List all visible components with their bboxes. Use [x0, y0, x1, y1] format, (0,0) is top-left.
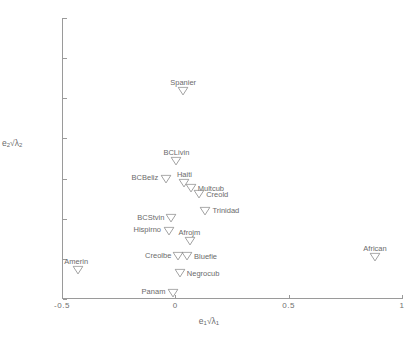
y-axis-title-radical: √λ	[10, 138, 19, 148]
x-tick-mark	[289, 295, 290, 299]
data-point-label: Haiti	[177, 171, 192, 179]
y-axis-line	[62, 18, 63, 299]
x-tick-mark	[62, 295, 63, 299]
data-point-label: African	[363, 245, 386, 253]
data-point-marker	[182, 252, 193, 261]
data-point-marker	[163, 226, 174, 235]
data-point-label: BCStvin	[137, 214, 164, 222]
x-tick-label: 1	[400, 301, 405, 310]
y-tick-mark	[63, 299, 67, 300]
data-point-marker	[194, 190, 205, 199]
x-tick-label: 0	[173, 301, 178, 310]
x-tick-label: 0.5	[282, 301, 295, 310]
y-axis-title: e2√λ2	[2, 138, 22, 148]
x-axis-title-radical-sub: 1	[216, 320, 219, 326]
data-point-label: Spanier	[170, 79, 196, 87]
y-tick-mark	[63, 98, 67, 99]
data-point-label: BCBeliz	[132, 174, 159, 182]
data-point-label: Hispirno	[134, 226, 162, 234]
data-point-label: Negrocub	[187, 270, 220, 278]
x-tick-label: -0.5	[54, 301, 70, 310]
x-tick-mark	[402, 295, 403, 299]
data-point-label: Panam	[142, 288, 166, 296]
y-tick-mark	[63, 179, 67, 180]
plot-area: 10.80.60.40.20-0.2-0.4 -0.500.51 Spanier…	[62, 18, 402, 299]
data-point-marker	[160, 174, 171, 183]
data-point-marker	[167, 288, 178, 297]
data-point-marker	[174, 269, 185, 278]
figure-scatter-plot: e2√λ2 e1√λ1 10.80.60.40.20-0.2-0.4 -0.50…	[0, 0, 418, 344]
data-point-label: BCLivin	[163, 149, 189, 157]
data-point-label: Amerin	[64, 258, 88, 266]
data-point-label: Creolbe	[145, 252, 171, 260]
data-point-label: Trinidad	[212, 207, 239, 215]
y-tick-mark	[63, 58, 67, 59]
data-point-marker	[73, 266, 84, 275]
data-point-marker	[178, 87, 189, 96]
data-point-marker	[171, 156, 182, 165]
y-tick-mark	[63, 138, 67, 139]
y-axis-title-radical-sub: 2	[19, 142, 22, 148]
x-axis-title-radical: √λ	[207, 316, 216, 326]
data-point-label: Creold	[206, 191, 228, 199]
y-tick-mark	[63, 219, 67, 220]
data-point-marker	[166, 214, 177, 223]
data-point-label: Bluefie	[194, 253, 217, 261]
data-point-marker	[184, 236, 195, 245]
data-point-marker	[369, 253, 380, 262]
data-point-marker	[200, 206, 211, 215]
data-point-label: Afrojm	[179, 229, 201, 237]
x-axis-title: e1√λ1	[0, 316, 418, 326]
x-axis-line	[62, 298, 402, 299]
y-tick-mark	[63, 18, 67, 19]
